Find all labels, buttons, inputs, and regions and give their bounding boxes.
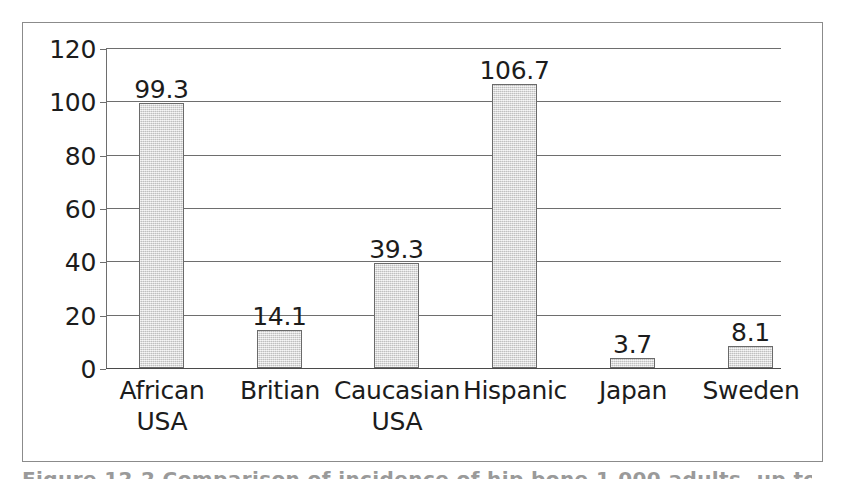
x-label-african-usa-line2: USA: [119, 406, 204, 437]
gridline-120: 120: [106, 48, 781, 49]
x-label-african-usa: African USA: [119, 375, 204, 437]
bar-sweden[interactable]: 8.1: [728, 346, 773, 368]
x-label-african-usa-line1: African: [119, 376, 204, 405]
x-label-caucasian-usa: Caucasian USA: [334, 375, 460, 437]
x-label-britian-line1: Britian: [240, 376, 320, 405]
y-tick-mark-60: [100, 209, 106, 210]
x-axis-category-labels: African USA Britian Caucasian USA Hispan…: [106, 375, 781, 455]
y-tick-label-100: 100: [49, 90, 96, 115]
x-label-japan-line1: Japan: [599, 376, 667, 405]
bar-african-usa[interactable]: 99.3: [139, 103, 184, 368]
y-tick-mark-0: [100, 369, 106, 370]
gridline-60: 60: [106, 208, 781, 209]
bar-value-label-african-usa: 99.3: [134, 77, 188, 102]
bar-value-label-sweden: 8.1: [731, 320, 770, 345]
y-tick-label-120: 120: [49, 37, 96, 62]
bar-value-label-caucasian-usa: 39.3: [369, 237, 423, 262]
y-tick-mark-80: [100, 156, 106, 157]
y-tick-label-80: 80: [65, 143, 96, 168]
y-tick-mark-120: [100, 49, 106, 50]
x-label-hispanic-line1: Hispanic: [463, 376, 567, 405]
x-label-caucasian-usa-line2: USA: [334, 406, 460, 437]
x-label-caucasian-usa-line1: Caucasian: [334, 376, 460, 405]
x-label-britian: Britian: [240, 375, 320, 406]
x-label-sweden: Sweden: [703, 375, 800, 406]
y-tick-label-60: 60: [65, 197, 96, 222]
y-tick-label-40: 40: [65, 250, 96, 275]
y-tick-mark-100: [100, 102, 106, 103]
bar-value-label-britian: 14.1: [252, 304, 306, 329]
x-label-hispanic: Hispanic: [463, 375, 567, 406]
gridline-100: 100: [106, 101, 781, 102]
bar-value-label-japan: 3.7: [613, 332, 652, 357]
gridline-80: 80: [106, 155, 781, 156]
bar-japan[interactable]: 3.7: [610, 358, 655, 368]
figure-frame: 120 100 80 60 40 20 0 99.3: [22, 22, 823, 462]
x-label-sweden-line1: Sweden: [703, 376, 800, 405]
bar-britian[interactable]: 14.1: [257, 330, 302, 368]
figure-caption: Figure 12.2 Comparison of incidence of h…: [22, 468, 812, 479]
bar-value-label-hispanic: 106.7: [479, 58, 549, 83]
bar-hispanic[interactable]: 106.7: [492, 84, 537, 369]
y-tick-label-0: 0: [80, 357, 96, 382]
gridline-20: 20: [106, 315, 781, 316]
gridline-0-baseline: 0: [106, 368, 781, 369]
x-label-japan: Japan: [599, 375, 667, 406]
y-tick-label-20: 20: [65, 303, 96, 328]
gridline-40: 40: [106, 261, 781, 262]
chart-plot-area: 120 100 80 60 40 20 0 99.3: [106, 48, 781, 368]
y-tick-mark-20: [100, 316, 106, 317]
y-tick-mark-40: [100, 262, 106, 263]
bar-caucasian-usa[interactable]: 39.3: [374, 263, 419, 368]
